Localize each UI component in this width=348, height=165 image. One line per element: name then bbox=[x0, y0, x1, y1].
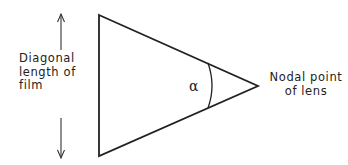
view-triangle bbox=[99, 15, 258, 156]
angle-alpha-label: α bbox=[189, 78, 198, 94]
label-line: film bbox=[19, 79, 76, 93]
nodal-point-label: Nodal point of lens bbox=[264, 71, 348, 98]
label-line: of lens bbox=[264, 85, 348, 99]
label-line: Nodal point bbox=[264, 71, 348, 85]
label-line: Diagonal bbox=[19, 52, 76, 66]
label-line: length of bbox=[19, 66, 76, 80]
diagonal-length-label: Diagonal length of film bbox=[19, 52, 76, 93]
down-arrow-icon bbox=[58, 118, 65, 158]
angle-arc bbox=[208, 63, 212, 108]
up-arrow-icon bbox=[58, 14, 65, 50]
